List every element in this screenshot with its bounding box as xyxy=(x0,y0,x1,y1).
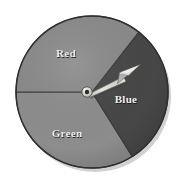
spinner-wheel-graphic[interactable] xyxy=(0,0,177,185)
needle-pivot-hole xyxy=(85,90,89,94)
spinner-figure: Red Blue Green xyxy=(0,0,177,185)
